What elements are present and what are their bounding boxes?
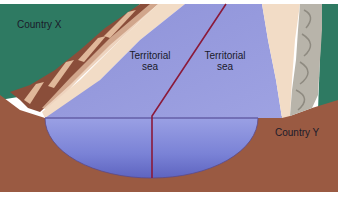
label-country-x: Country X (17, 19, 61, 30)
label-territorial-sea-left: Territorial sea (126, 50, 174, 72)
label-country-y: Country Y (275, 127, 319, 138)
label-territorial-sea-right: Territorial sea (200, 50, 250, 72)
territorial-sea-diagram: Country X Territorial sea Territorial se… (0, 0, 338, 197)
